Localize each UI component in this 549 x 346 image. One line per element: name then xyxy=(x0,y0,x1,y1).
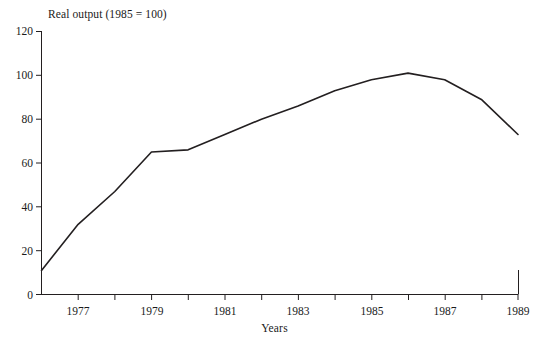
y-tick-label-120: 120 xyxy=(0,25,33,37)
y-tick-label-60: 60 xyxy=(0,157,33,169)
y-tick-label-20: 20 xyxy=(0,245,33,257)
chart-figure: Real output (1985 = 100) xyxy=(0,0,549,346)
chart-plot-area xyxy=(0,0,549,346)
y-axis-ticks xyxy=(36,32,42,295)
x-tick-label-1979: 1979 xyxy=(141,305,164,317)
y-tick-label-0: 0 xyxy=(0,289,33,301)
y-tick-label-40: 40 xyxy=(0,201,33,213)
x-tick-label-1989: 1989 xyxy=(507,305,530,317)
x-tick-label-1981: 1981 xyxy=(214,305,237,317)
x-tick-label-1983: 1983 xyxy=(287,305,310,317)
data-series-line xyxy=(42,73,519,270)
x-tick-label-1977: 1977 xyxy=(67,305,90,317)
x-axis-ticks xyxy=(42,270,519,300)
x-tick-label-1985: 1985 xyxy=(361,305,384,317)
y-tick-label-100: 100 xyxy=(0,69,33,81)
y-tick-label-80: 80 xyxy=(0,113,33,125)
x-axis-title: Years xyxy=(0,322,549,334)
x-tick-label-1987: 1987 xyxy=(434,305,457,317)
